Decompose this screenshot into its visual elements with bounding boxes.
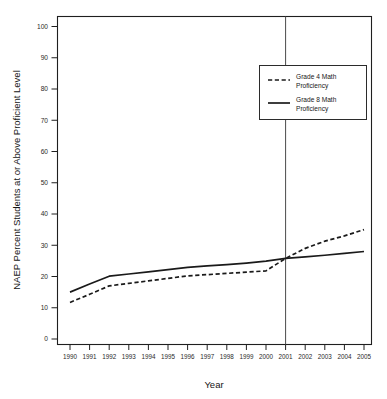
legend: Grade 4 Math Proficiency Grade 8 Math Pr…	[260, 66, 367, 120]
legend-label-grade-4-line1: Grade 4 Math	[296, 73, 337, 80]
x-tick-label: 1992	[102, 353, 117, 360]
x-tick-label: 2002	[298, 353, 313, 360]
legend-label-grade-4-line2: Proficiency	[296, 82, 329, 90]
y-tick-label: 90	[41, 54, 49, 61]
y-tick-label: 60	[41, 148, 49, 155]
y-tick-label: 20	[41, 273, 49, 280]
x-tick-label: 1994	[141, 353, 156, 360]
y-tick-label: 50	[41, 179, 49, 186]
legend-label-grade-8-line2: Proficiency	[296, 105, 329, 113]
x-tick-label: 1991	[83, 353, 98, 360]
x-tick-label: 1997	[200, 353, 215, 360]
y-tick-label: 10	[41, 304, 49, 311]
x-tick-label: 1990	[63, 353, 78, 360]
x-tick-label: 2003	[318, 353, 333, 360]
y-tick-label: 80	[41, 85, 49, 92]
y-axis-title: NAEP Percent Students at or Above Profic…	[11, 70, 22, 290]
legend-label-grade-8-line1: Grade 8 Math	[296, 96, 337, 103]
x-tick-label: 2001	[279, 353, 294, 360]
y-tick-label: 70	[41, 117, 49, 124]
y-tick-label: 0	[44, 335, 48, 342]
x-tick-label: 1993	[122, 353, 137, 360]
x-tick-label: 2004	[337, 353, 352, 360]
line-chart: 0102030405060708090100 19901991199219931…	[0, 0, 387, 399]
x-tick-label: 1996	[181, 353, 196, 360]
chart-container: 0102030405060708090100 19901991199219931…	[0, 0, 387, 399]
x-tick-label: 1999	[239, 353, 254, 360]
x-tick-label: 2005	[357, 353, 372, 360]
y-tick-label: 40	[41, 210, 49, 217]
y-tick-label: 100	[37, 23, 48, 30]
x-tick-label: 1998	[220, 353, 235, 360]
x-tick-label: 2000	[259, 353, 274, 360]
x-axis-title: Year	[204, 379, 223, 390]
x-tick-label: 1995	[161, 353, 176, 360]
y-tick-label: 30	[41, 242, 49, 249]
